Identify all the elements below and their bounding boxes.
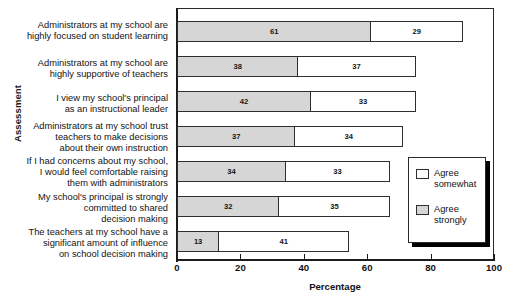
bar-row: 3734 xyxy=(177,126,403,147)
category-label: Administrators at my school trustteacher… xyxy=(12,121,168,155)
x-axis-title: Percentage xyxy=(176,281,494,292)
x-tick-mark xyxy=(304,254,305,259)
bar-value-label: 34 xyxy=(344,133,352,141)
stacked-bar-chart: Assessment Administrators at my school a… xyxy=(0,0,510,302)
legend-label: Agreestrongly xyxy=(434,204,467,226)
bar-segment-somewhat: 41 xyxy=(218,231,349,252)
legend: AgreesomewhatAgreestrongly xyxy=(408,157,486,243)
x-tick-label: 100 xyxy=(479,262,509,273)
bar-value-label: 37 xyxy=(232,133,240,141)
bar-segment-strong: 37 xyxy=(177,126,295,147)
bar-value-label: 13 xyxy=(194,238,202,246)
bar-segment-somewhat: 37 xyxy=(297,56,415,77)
x-tick-label: 0 xyxy=(162,262,192,273)
bar-value-label: 34 xyxy=(227,168,235,176)
category-label: I view my school's principalas an instru… xyxy=(12,93,168,115)
bar-segment-strong: 13 xyxy=(177,231,219,252)
bar-segment-somewhat: 34 xyxy=(294,126,403,147)
bar-value-label: 38 xyxy=(234,63,242,71)
bar-value-label: 41 xyxy=(279,238,287,246)
bar-value-label: 32 xyxy=(224,203,232,211)
legend-swatch-strong xyxy=(416,205,429,215)
bar-value-label: 33 xyxy=(333,168,341,176)
x-tick-label: 80 xyxy=(416,262,446,273)
x-tick-label: 60 xyxy=(352,262,382,273)
bar-segment-somewhat: 33 xyxy=(310,91,416,112)
bar-segment-somewhat: 35 xyxy=(278,196,390,217)
x-tick-mark xyxy=(240,254,241,259)
category-label-column: Administrators at my school arehighly fo… xyxy=(14,8,172,260)
category-label: Administrators at my school arehighly su… xyxy=(12,58,168,80)
bar-value-label: 35 xyxy=(330,203,338,211)
category-label: If I had concerns about my school,I woul… xyxy=(12,156,168,190)
bar-segment-somewhat: 33 xyxy=(285,161,391,182)
bar-segment-strong: 32 xyxy=(177,196,279,217)
bar-row: 3235 xyxy=(177,196,390,217)
x-tick-label: 40 xyxy=(289,262,319,273)
bar-segment-strong: 38 xyxy=(177,56,298,77)
x-tick-mark xyxy=(367,254,368,259)
bar-row: 3837 xyxy=(177,56,416,77)
bar-value-label: 61 xyxy=(270,28,278,36)
category-label: My school's principal is stronglycommitt… xyxy=(12,192,168,226)
x-axis-ticks: 020406080100 xyxy=(0,261,510,281)
bar-value-label: 37 xyxy=(352,63,360,71)
bar-row: 1341 xyxy=(177,231,349,252)
legend-label: Agreesomewhat xyxy=(434,168,476,190)
category-label: The teachers at my school have asignific… xyxy=(12,227,168,261)
bar-segment-somewhat: 29 xyxy=(370,21,463,42)
bar-row: 6129 xyxy=(177,21,463,42)
bar-value-label: 42 xyxy=(240,98,248,106)
x-tick-mark xyxy=(494,254,495,259)
x-tick-mark xyxy=(431,254,432,259)
bar-segment-strong: 42 xyxy=(177,91,311,112)
bar-segment-strong: 61 xyxy=(177,21,371,42)
bar-row: 3433 xyxy=(177,161,390,182)
category-label: Administrators at my school arehighly fo… xyxy=(12,20,168,42)
bar-value-label: 33 xyxy=(359,98,367,106)
x-tick-label: 20 xyxy=(225,262,255,273)
legend-swatch-somewhat xyxy=(416,169,429,179)
legend-item: Agreesomewhat xyxy=(416,168,476,190)
bar-segment-strong: 34 xyxy=(177,161,286,182)
bar-value-label: 29 xyxy=(413,28,421,36)
legend-item: Agreestrongly xyxy=(416,204,467,226)
bar-row: 4233 xyxy=(177,91,416,112)
